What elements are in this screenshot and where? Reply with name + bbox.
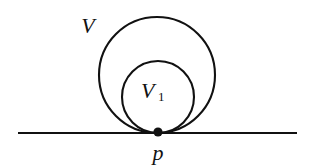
tangent-circles-diagram: V V 1 p (0, 0, 318, 167)
tangency-point-dot (153, 127, 162, 136)
label-tangency-point: p (151, 140, 164, 165)
figure-canvas: V V 1 p (0, 0, 318, 167)
label-inner-circle-subscript: 1 (158, 89, 165, 104)
